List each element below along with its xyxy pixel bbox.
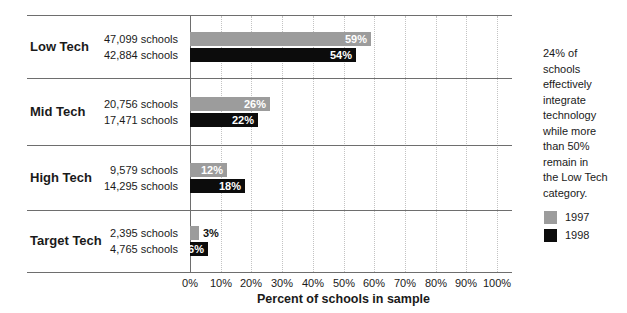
value-label-1997-high-tech: 12% [201,163,223,177]
value-label-1997-low-tech: 59% [345,32,367,46]
value-label-1997-mid-tech: 26% [244,97,266,111]
value-label-1998-mid-tech: 22% [232,113,254,127]
count-1997-high-tech: 9,579 schools [110,163,178,177]
value-label-1998-high-tech: 18% [219,179,241,193]
annotation-line: effectively [543,77,621,93]
annotation-line: technology [543,108,621,124]
gridline-70% [405,16,406,272]
gridline-60% [374,16,375,272]
value-label-1997-target-tech: 3% [203,226,219,240]
annotation-text: 24% ofschoolseffectivelyintegratetechnol… [543,46,621,201]
bar-1997-low-tech [190,32,371,46]
bar-chart: 0%10%20%30%40%50%60%70%80%90%100%Low Tec… [0,0,627,313]
x-axis-line [27,272,512,273]
count-1997-mid-tech: 20,756 schools [104,97,178,111]
annotation-line: schools [543,62,621,78]
annotation-line: integrate [543,93,621,109]
legend-swatch-1998 [544,229,557,242]
annotation-line: remain in [543,155,621,171]
gridline-90% [466,16,467,272]
legend-swatch-1997 [544,211,557,224]
gridline-100% [497,16,498,272]
legend: 19971998 [544,211,589,247]
count-1997-low-tech: 47,099 schools [104,32,178,46]
category-label-mid-tech: Mid Tech [30,104,85,120]
value-label-1998-low-tech: 54% [330,48,352,62]
annotation-line: while more [543,124,621,140]
x-axis-title: Percent of schools in sample [190,292,497,306]
count-1998-high-tech: 14,295 schools [104,179,178,193]
annotation-line: 24% of [543,46,621,62]
count-1998-target-tech: 4,765 schools [110,242,178,256]
legend-label-1997: 1997 [565,211,589,224]
count-1997-target-tech: 2,395 schools [110,226,178,240]
legend-item-1998: 1998 [544,229,589,242]
row-separator [27,210,512,211]
count-1998-mid-tech: 17,471 schools [104,113,178,127]
legend-item-1997: 1997 [544,211,589,224]
category-label-target-tech: Target Tech [30,233,102,249]
annotation-line: than 50% [543,139,621,155]
row-separator [27,78,512,79]
row-separator [27,145,512,146]
annotation-line: category. [543,186,621,202]
category-label-high-tech: High Tech [30,170,92,186]
x-tick-100%: 100% [475,277,519,289]
category-label-low-tech: Low Tech [30,39,89,55]
legend-label-1998: 1998 [565,229,589,242]
annotation-line: the Low Tech [543,170,621,186]
gridline-80% [436,16,437,272]
bar-1997-target-tech [190,226,199,240]
count-1998-low-tech: 42,884 schools [104,48,178,62]
value-label-1998-target-tech: 6% [188,242,204,256]
top-rule [27,15,512,16]
